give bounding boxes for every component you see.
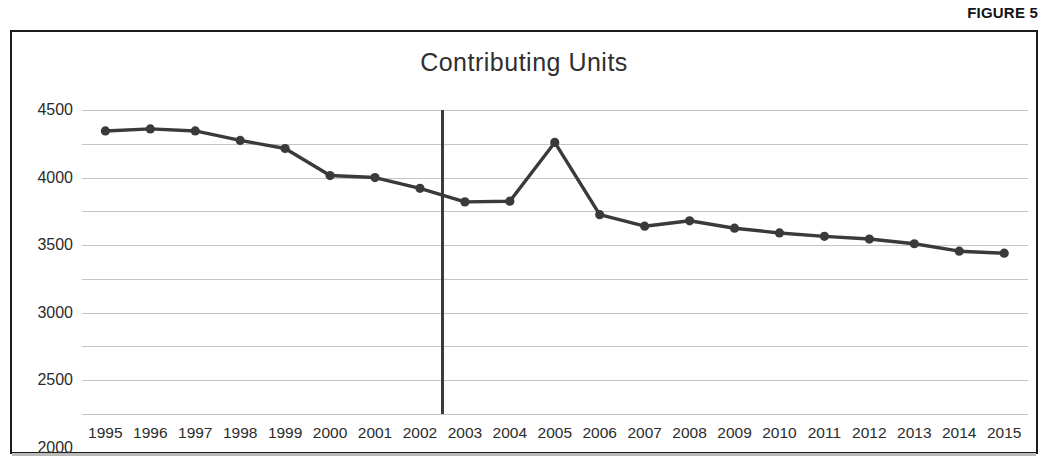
y-axis-tick-label: 4500 (37, 101, 73, 119)
data-point-marker (685, 216, 694, 225)
data-point-marker (955, 247, 964, 256)
plot-area: 450040003500300025002000150010005000 199… (82, 110, 1028, 414)
x-axis-tick-label: 2011 (808, 424, 841, 442)
x-axis-tick-label: 2000 (313, 424, 347, 442)
y-axis-tick-label: 3500 (37, 236, 73, 254)
chart-title: Contributing Units (12, 48, 1036, 77)
x-axis-tick-label: 2006 (582, 424, 616, 442)
x-axis-tick-label: 2001 (358, 424, 392, 442)
data-point-marker (460, 197, 469, 206)
x-axis-tick-label: 2015 (987, 424, 1021, 442)
data-point-marker (325, 171, 334, 180)
data-point-marker (775, 228, 784, 237)
x-axis-tick-label: 2002 (403, 424, 437, 442)
x-axis-tick-label: 2007 (627, 424, 661, 442)
y-axis-tick-label: 4000 (37, 169, 73, 187)
data-point-marker (640, 222, 649, 231)
figure-root: FIGURE 5 Contributing Units 450040003500… (0, 0, 1048, 470)
data-point-marker (236, 136, 245, 145)
y-axis-tick-label: 2500 (37, 371, 73, 389)
figure-caption: FIGURE 5 (967, 4, 1038, 21)
data-point-marker (505, 197, 514, 206)
x-axis-tick-label: 2010 (762, 424, 796, 442)
x-axis-tick-label: 2003 (448, 424, 482, 442)
x-axis-tick-label: 1996 (133, 424, 167, 442)
gridline: 0 (82, 414, 1028, 415)
x-axis-tick-label: 2008 (672, 424, 706, 442)
x-axis-tick-label: 2009 (717, 424, 751, 442)
y-axis-tick-label: 3000 (37, 304, 73, 322)
x-axis-tick-label: 1999 (268, 424, 302, 442)
series-layer (82, 110, 1028, 414)
data-point-marker (415, 184, 424, 193)
data-point-marker (191, 126, 200, 135)
x-axis-tick-label: 1995 (88, 424, 122, 442)
x-axis-tick-label: 1997 (178, 424, 212, 442)
data-point-marker (101, 126, 110, 135)
x-axis-tick-label: 2012 (852, 424, 886, 442)
x-axis-tick-label: 2013 (897, 424, 931, 442)
y-axis-tick-label: 2000 (37, 439, 73, 457)
data-point-marker (730, 224, 739, 233)
data-point-marker (1000, 249, 1009, 258)
data-point-marker (595, 210, 604, 219)
x-axis-tick-label: 2004 (493, 424, 527, 442)
data-point-marker (370, 173, 379, 182)
data-point-marker (550, 138, 559, 147)
x-axis-tick-label: 2014 (942, 424, 976, 442)
x-axis-tick-label: 1998 (223, 424, 257, 442)
data-point-marker (281, 144, 290, 153)
data-point-marker (910, 239, 919, 248)
data-point-marker (820, 232, 829, 241)
chart-frame: Contributing Units 450040003500300025002… (10, 30, 1038, 454)
data-point-marker (865, 234, 874, 243)
data-point-marker (146, 124, 155, 133)
x-axis-tick-label: 2005 (538, 424, 572, 442)
